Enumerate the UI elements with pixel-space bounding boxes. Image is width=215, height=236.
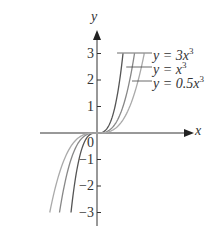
chart: y x y = 3x3 y = x3 y = 0.5x3 −3−2−11230	[0, 0, 215, 236]
y-axis-arrow-icon	[93, 30, 101, 40]
y-tick-label: −3	[79, 206, 94, 220]
plot-area	[0, 0, 215, 236]
y-tick-label: 1	[87, 100, 94, 114]
legend-05x3: y = 0.5x3	[153, 75, 204, 91]
x-axis-arrow-icon	[184, 129, 194, 137]
y-tick-label: 3	[87, 47, 94, 61]
y-axis-label: y	[91, 10, 97, 24]
y-tick-label: −1	[79, 153, 94, 167]
y-tick-label: 2	[87, 73, 94, 87]
origin-label: 0	[87, 136, 94, 150]
y-tick-label: −2	[79, 179, 94, 193]
x-axis-label: x	[195, 124, 201, 138]
